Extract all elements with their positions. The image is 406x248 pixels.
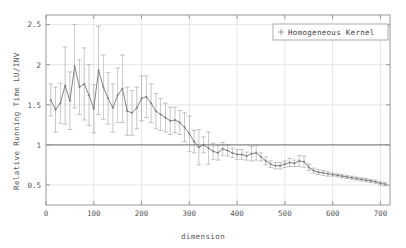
svg-text:400: 400 xyxy=(230,209,244,218)
tick-labels: 01002003004005006007000.511.522.5 xyxy=(27,20,387,218)
svg-text:200: 200 xyxy=(135,209,149,218)
plot-frame xyxy=(46,15,390,205)
svg-text:500: 500 xyxy=(278,209,292,218)
svg-text:300: 300 xyxy=(183,209,197,218)
svg-text:2.5: 2.5 xyxy=(27,20,41,29)
svg-text:0.5: 0.5 xyxy=(27,181,41,190)
svg-text:700: 700 xyxy=(374,209,388,218)
y-axis-title: Relative Running Time LU/INV xyxy=(12,52,21,190)
gridlines xyxy=(46,15,390,205)
series-error-bars xyxy=(48,25,387,186)
svg-text:0: 0 xyxy=(44,209,49,218)
svg-text:100: 100 xyxy=(87,209,101,218)
svg-text:600: 600 xyxy=(326,209,340,218)
svg-text:1.5: 1.5 xyxy=(27,101,41,110)
svg-text:1: 1 xyxy=(36,141,41,150)
axis-ticks xyxy=(46,15,390,205)
x-axis-title: dimension xyxy=(0,232,406,241)
series-line-homogeneous-kernel xyxy=(49,65,386,185)
plot-canvas: 01002003004005006007000.511.522.5 xyxy=(0,0,406,248)
chart-figure: 01002003004005006007000.511.522.5 Relati… xyxy=(0,0,406,248)
legend-entry-label: Homogeneous Kernel xyxy=(288,28,375,37)
svg-text:2: 2 xyxy=(36,61,41,70)
